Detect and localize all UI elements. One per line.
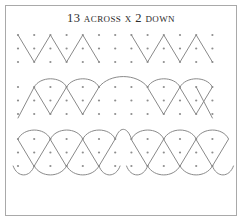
grid-dot <box>114 151 116 153</box>
grid-dot <box>17 61 19 63</box>
grid-dot <box>163 47 165 49</box>
petal-low-left-3 <box>67 166 99 175</box>
grid-dot <box>82 47 84 49</box>
pattern-card: 13 across x 2 down <box>0 0 242 221</box>
loop-left-1 <box>34 79 66 114</box>
grid-dot <box>98 113 100 115</box>
grid-dot <box>147 151 149 153</box>
grid-dot <box>147 138 149 140</box>
grid-dot <box>33 138 35 140</box>
grid-dot <box>66 138 68 140</box>
zigzag-group-1 <box>18 35 99 62</box>
grid-dot <box>179 138 181 140</box>
grid-dot <box>195 151 197 153</box>
grid-dot <box>82 86 84 88</box>
grid-dot <box>130 99 132 101</box>
grid-dot <box>49 61 51 63</box>
grid-dot <box>130 151 132 153</box>
grid-dot <box>66 47 68 49</box>
loop-leg-left <box>18 87 34 118</box>
grid-dot <box>33 99 35 101</box>
grid-dot <box>17 151 19 153</box>
grid-dot <box>114 61 116 63</box>
grid-dot <box>147 34 149 36</box>
petal-up-right-3 <box>196 130 228 166</box>
grid-dot <box>66 99 68 101</box>
loop-right-1 <box>148 79 180 114</box>
grid-dot <box>49 99 51 101</box>
grid-dot <box>211 34 213 36</box>
petal-low-left-4 <box>99 166 120 175</box>
petal-low-right-3 <box>180 166 212 175</box>
grid-dot <box>211 99 213 101</box>
petal-low-right-4 <box>212 166 233 175</box>
petal-up-left-3 <box>83 130 115 166</box>
dot-grid-diagram <box>5 5 237 216</box>
grid-dot <box>82 151 84 153</box>
grid-dot <box>33 113 35 115</box>
grid-dot <box>130 47 132 49</box>
pattern-canvas <box>5 5 237 216</box>
grid-dot <box>17 99 19 101</box>
loop-centre-arc <box>99 77 148 88</box>
zigzag-group-2 <box>131 35 212 62</box>
grid-dot <box>98 151 100 153</box>
petal-low-left-2 <box>34 166 66 175</box>
grid-dot <box>211 151 213 153</box>
grid-dot <box>163 151 165 153</box>
grid-dot <box>33 34 35 36</box>
grid-dot <box>179 151 181 153</box>
grid-dot <box>49 47 51 49</box>
grid-dot <box>147 113 149 115</box>
grid-dot <box>195 47 197 49</box>
grid-dot <box>98 47 100 49</box>
grid-dot <box>82 99 84 101</box>
grid-dot <box>211 138 213 140</box>
grid-dot <box>17 113 19 115</box>
grid-dot <box>147 99 149 101</box>
grid-dot <box>163 99 165 101</box>
grid-dot <box>33 47 35 49</box>
petal-low-right-1 <box>127 166 148 175</box>
grid-dot <box>211 113 213 115</box>
grid-dot <box>66 113 68 115</box>
grid-dot <box>98 138 100 140</box>
grid-dot <box>17 47 19 49</box>
grid-dot <box>49 86 51 88</box>
grid-dot <box>195 99 197 101</box>
grid-dot <box>82 61 84 63</box>
petal-up-right-1 <box>131 130 163 166</box>
petal-centre-arc <box>115 129 131 139</box>
grid-dot <box>114 86 116 88</box>
grid-dot <box>98 99 100 101</box>
petal-up-right-2 <box>164 130 196 166</box>
grid-dot <box>195 165 197 167</box>
grid-dot <box>114 34 116 36</box>
overlapping-petal-band <box>13 129 233 175</box>
grid-dot <box>130 165 132 167</box>
grid-dot <box>114 47 116 49</box>
grid-dot <box>66 151 68 153</box>
grid-dot <box>163 86 165 88</box>
grid-dot <box>114 113 116 115</box>
grid-dot <box>211 47 213 49</box>
petal-up-left-1 <box>18 130 50 166</box>
grid-dot <box>17 86 19 88</box>
dot-grid <box>17 34 214 167</box>
grid-dot <box>179 99 181 101</box>
grid-dot <box>114 165 116 167</box>
petal-low-left-1 <box>13 166 34 175</box>
grid-dot <box>49 165 51 167</box>
grid-dot <box>98 34 100 36</box>
petal-low-right-2 <box>148 166 180 175</box>
loop-left-2 <box>67 79 99 114</box>
grid-dot <box>33 151 35 153</box>
grid-dot <box>163 61 165 63</box>
arc-loop-band <box>18 77 212 119</box>
grid-dot <box>179 34 181 36</box>
grid-dot <box>179 113 181 115</box>
grid-dot <box>130 113 132 115</box>
grid-dot <box>49 151 51 153</box>
petal-up-left-2 <box>50 130 82 166</box>
grid-dot <box>179 47 181 49</box>
